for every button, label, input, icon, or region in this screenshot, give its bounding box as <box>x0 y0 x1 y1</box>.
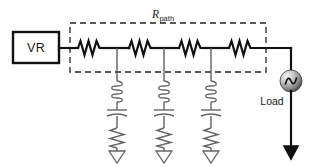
load-ground-icon <box>284 146 298 159</box>
shunt-branch-1 <box>107 48 127 163</box>
branch-2-inductor-icon <box>159 81 170 102</box>
circuit-schematic-canvas: Rpath VR <box>0 0 315 167</box>
branch-1-ground-icon <box>109 151 125 163</box>
load-branch: Load <box>260 48 302 159</box>
rpath-label-symbol: R <box>151 8 159 20</box>
branch-2-ground-icon <box>156 151 172 163</box>
branch-1-capacitor-icon <box>107 110 127 116</box>
path-resistor-r2 <box>129 41 152 55</box>
branch-1-resistor-icon <box>110 128 124 148</box>
rpath-label-subscript: path <box>159 14 174 23</box>
branch-3-capacitor-icon <box>201 110 221 116</box>
branch-2-resistor-icon <box>157 128 171 148</box>
branch-3-resistor-icon <box>204 128 218 148</box>
shunt-branch-3 <box>201 48 221 163</box>
vr-label: VR <box>27 41 45 55</box>
branch-3-ground-icon <box>203 151 219 163</box>
branch-1-inductor-icon <box>112 81 123 102</box>
path-resistor-r1 <box>78 41 101 55</box>
path-resistor-r4 <box>229 41 252 55</box>
ac-source-icon <box>280 70 302 92</box>
branch-2-capacitor-icon <box>154 110 174 116</box>
shunt-branch-2 <box>154 48 174 163</box>
branch-3-inductor-icon <box>206 81 217 102</box>
voltage-regulator-block: VR <box>13 32 59 63</box>
load-label: Load <box>260 95 284 107</box>
path-resistor-r3 <box>179 41 202 55</box>
circuit-diagram: Rpath VR <box>0 0 315 167</box>
rpath-label: Rpath <box>151 8 174 23</box>
